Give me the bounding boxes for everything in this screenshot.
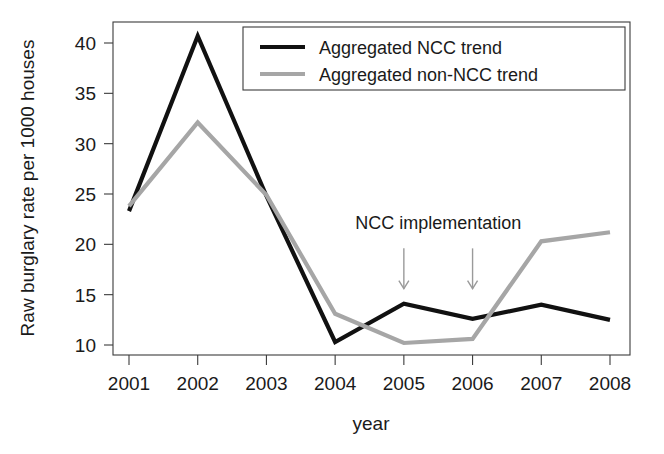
x-tick-label: 2004 (314, 373, 357, 394)
x-tick-label: 2002 (177, 373, 219, 394)
burglary-rate-line-chart: 10152025303540 2001200220032004200520062… (0, 0, 664, 454)
x-tick-label: 2008 (589, 373, 631, 394)
legend-label-1: Aggregated NCC trend (319, 38, 502, 58)
y-tick-label: 15 (75, 285, 96, 306)
chart-legend: Aggregated NCC trendAggregated non-NCC t… (243, 27, 625, 90)
legend-label-2: Aggregated non-NCC trend (319, 65, 538, 85)
annotation-text: NCC implementation (355, 213, 521, 233)
x-axis-title: year (353, 413, 391, 434)
y-tick-label: 20 (75, 234, 96, 255)
x-tick-label: 2005 (383, 373, 425, 394)
y-axis-title: Raw burglary rate per 1000 houses (17, 40, 38, 337)
x-tick-label: 2006 (451, 373, 493, 394)
y-tick-label: 35 (75, 83, 96, 104)
x-tick-label: 2007 (520, 373, 562, 394)
y-axis: 10152025303540 (75, 33, 113, 356)
y-tick-label: 25 (75, 184, 96, 205)
x-axis: 20012002200320042005200620072008 (108, 355, 631, 394)
y-tick-label: 40 (75, 33, 96, 54)
chart-annotations: NCC implementation (355, 213, 521, 288)
chart-svg: 10152025303540 2001200220032004200520062… (0, 0, 664, 454)
x-tick-label: 2001 (108, 373, 150, 394)
y-tick-label: 10 (75, 335, 96, 356)
x-tick-label: 2003 (245, 373, 287, 394)
y-tick-label: 30 (75, 134, 96, 155)
